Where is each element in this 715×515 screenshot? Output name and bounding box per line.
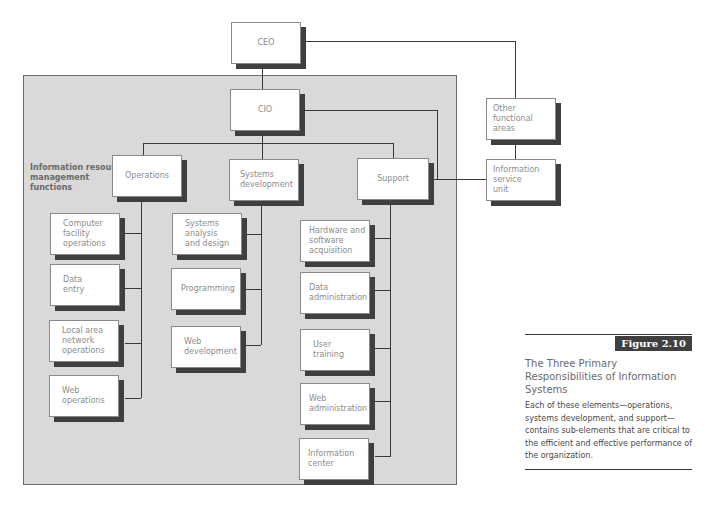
node-cio-label: CIO — [258, 105, 272, 115]
connector-su-3 — [375, 348, 390, 349]
node-other-label: Other functional areas — [493, 104, 555, 134]
node-support-label: Support — [377, 174, 409, 184]
node-support: Support — [357, 158, 429, 200]
node-label: Web development — [184, 337, 237, 357]
node-hardware-software-acquisition: Hardware and software acquisition — [300, 220, 370, 262]
connector-right-to-other — [515, 41, 516, 98]
connector-su-5 — [375, 456, 390, 457]
node-label: User training — [313, 340, 344, 360]
connector-ceo-right — [305, 41, 515, 42]
node-label: Hardware and software acquisition — [309, 226, 365, 256]
connector-op-4 — [125, 398, 141, 399]
node-cio: CIO — [230, 89, 300, 131]
node-lan-operations: Local area network operations — [49, 320, 119, 362]
connector-operations-spine — [141, 198, 142, 398]
connector-cio-down-right — [437, 110, 438, 179]
connector-support-spine — [390, 201, 391, 457]
connector-su-4 — [375, 401, 390, 402]
figure-number-badge: Figure 2.10 — [615, 336, 692, 351]
node-operations: Operations — [112, 155, 182, 197]
connector-ceo-cio — [262, 62, 263, 90]
connector-sd-1 — [246, 234, 261, 235]
figure-caption: Figure 2.10 The Three Primary Responsibi… — [525, 334, 692, 470]
connector-su-2 — [375, 290, 390, 291]
node-systems-analysis-design: Systems analysis and design — [172, 213, 242, 255]
caption-bottom-rule — [525, 469, 692, 470]
node-label: Data entry — [63, 275, 84, 295]
node-information-service-unit: Information service unit — [486, 159, 556, 201]
node-programming: Programming — [171, 268, 241, 310]
connector-op-3 — [125, 343, 141, 344]
connector-to-sysdev — [262, 143, 263, 160]
node-web-administration: Web administration — [300, 383, 370, 425]
connector-su-1 — [375, 238, 390, 239]
node-information-center: Information center — [299, 438, 369, 480]
connector-cio-down — [262, 130, 263, 143]
node-label: Local area network operations — [62, 326, 105, 356]
node-label: Web administration — [309, 394, 367, 414]
node-sysdev-label: Systems development — [240, 170, 293, 190]
node-label: Computer facility operations — [63, 219, 106, 249]
node-label: Data administration — [309, 283, 367, 303]
connector-other-to-isu — [515, 140, 516, 160]
connector-cio-right — [300, 110, 437, 111]
node-ceo: CEO — [231, 22, 301, 64]
node-label: Systems analysis and design — [185, 219, 229, 249]
connector-sysdev-spine — [261, 201, 262, 345]
figure-description: Each of these elements—operations, syste… — [525, 400, 692, 463]
node-user-training: User training — [300, 329, 370, 371]
node-ceo-label: CEO — [258, 38, 275, 48]
caption-top-rule — [525, 334, 692, 335]
node-label: Information center — [308, 449, 354, 469]
connector-sd-3 — [246, 345, 261, 346]
node-web-development: Web development — [171, 326, 241, 368]
node-label: Web operations — [62, 386, 105, 406]
node-web-operations: Web operations — [49, 375, 119, 417]
node-systems-development: Systems development — [229, 159, 299, 201]
figure-title: The Three Primary Responsibilities of In… — [525, 357, 692, 396]
connector-sd-2 — [246, 289, 261, 290]
connector-op-2 — [125, 288, 141, 289]
node-label: Programming — [181, 284, 235, 294]
node-isu-label: Information service unit — [493, 165, 539, 195]
node-data-administration: Data administration — [300, 272, 370, 314]
node-computer-facility-operations: Computer facility operations — [50, 213, 120, 255]
node-operations-label: Operations — [125, 171, 169, 181]
connector-op-1 — [125, 233, 141, 234]
node-other-functional-areas: Other functional areas — [486, 98, 556, 140]
node-data-entry: Data entry — [50, 264, 120, 306]
connector-branch-bar — [143, 143, 393, 144]
